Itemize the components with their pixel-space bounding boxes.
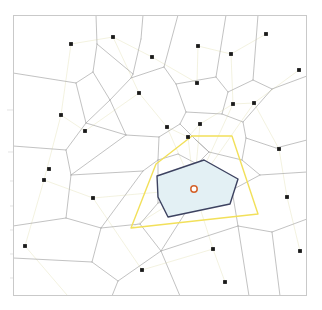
seed-point <box>231 102 235 106</box>
seed-point <box>229 52 233 56</box>
seed-point <box>297 68 301 72</box>
seed-point <box>195 81 199 85</box>
axis-ticks-left <box>7 110 13 278</box>
seed-point <box>264 32 268 36</box>
plot-background <box>13 15 307 296</box>
seed-point <box>211 247 215 251</box>
seed-point <box>223 280 227 284</box>
seed-point <box>47 167 51 171</box>
seed-point <box>196 44 200 48</box>
seed-point <box>285 195 289 199</box>
seed-point <box>186 135 190 139</box>
query-point[interactable] <box>191 186 197 192</box>
seed-point <box>69 42 73 46</box>
seed-point <box>150 55 154 59</box>
figure-canvas-container <box>0 0 322 310</box>
seed-point <box>83 129 87 133</box>
seed-point <box>42 178 46 182</box>
seed-point <box>71 300 75 304</box>
seed-point <box>140 268 144 272</box>
voronoi-figure <box>0 0 322 310</box>
seed-point <box>23 244 27 248</box>
seed-point <box>198 122 202 126</box>
seed-point <box>59 113 63 117</box>
seed-point <box>298 249 302 253</box>
seed-point <box>277 147 281 151</box>
seed-point <box>137 91 141 95</box>
seed-point <box>252 101 256 105</box>
seed-point <box>165 125 169 129</box>
seed-point <box>91 196 95 200</box>
seed-point <box>111 35 115 39</box>
